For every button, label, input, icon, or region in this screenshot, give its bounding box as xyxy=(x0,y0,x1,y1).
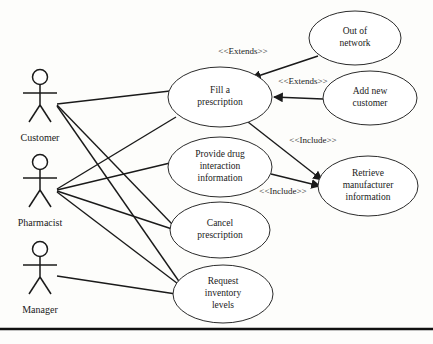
diagram-canvas: <<Extends>><<Extends>><<Include>><<Inclu… xyxy=(0,0,433,344)
use-case-label-retrieve-manufacturer-information: Retrieve xyxy=(352,168,384,178)
stereotype-label-provide-drug-interaction-includes-retrieve-manufacturer-information: <<Include>> xyxy=(259,186,306,196)
association-lines xyxy=(57,91,186,294)
actor-leg-left-customer xyxy=(29,105,40,122)
use-case-label-fill-a-prescription: Fill a xyxy=(210,85,231,95)
actor-customer[interactable]: Customer xyxy=(21,70,61,144)
stereotype-label-out-of-network-extends-fill-a-prescription: <<Extends>> xyxy=(218,46,267,56)
use-case-retrieve-manufacturer-information[interactable]: Retrievemanufacturerinformation xyxy=(318,156,418,216)
actor-leg-left-pharmacist xyxy=(29,190,40,207)
dependency-provide-drug-interaction-includes-retrieve-manufacturer-information xyxy=(271,174,320,186)
use-case-ellipses: Fill aprescriptionProvide druginteractio… xyxy=(168,11,418,323)
stereotype-label-add-new-customer-extends-fill-a-prescription: <<Extends>> xyxy=(278,76,327,86)
use-case-out-of-network[interactable]: Out ofnetwork xyxy=(309,11,401,65)
dependency-add-new-customer-extends-fill-a-prescription xyxy=(274,97,323,99)
use-case-label-request-inventory-levels: Request xyxy=(208,276,239,286)
use-case-label-out-of-network: Out of xyxy=(343,26,368,36)
use-case-label-provide-drug-interaction-information: information xyxy=(198,173,243,183)
association-pharmacist-fill-a-prescription xyxy=(57,117,176,189)
association-pharmacist-provide-drug-interaction xyxy=(57,163,170,190)
actor-head-customer xyxy=(33,70,48,85)
use-case-label-retrieve-manufacturer-information: information xyxy=(346,192,391,202)
use-case-provide-drug-interaction-information[interactable]: Provide druginteractioninformation xyxy=(168,137,272,197)
actor-leg-left-manager xyxy=(29,277,40,294)
actor-head-pharmacist xyxy=(33,155,48,170)
association-pharmacist-request-inventory-levels xyxy=(57,192,186,290)
use-case-label-retrieve-manufacturer-information: manufacturer xyxy=(343,180,394,190)
actor-leg-right-pharmacist xyxy=(40,190,51,207)
use-case-label-fill-a-prescription: prescription xyxy=(197,97,243,107)
actor-head-manager xyxy=(33,242,48,257)
stereotype-label-fill-a-prescription-includes-retrieve-manufacturer-information: <<Include>> xyxy=(289,135,336,145)
actor-pharmacist[interactable]: Pharmacist xyxy=(18,155,63,229)
association-customer-fill-a-prescription xyxy=(57,91,170,104)
association-pharmacist-cancel-prescription xyxy=(57,191,172,229)
dependency-out-of-network-extends-fill-a-prescription xyxy=(252,56,318,78)
use-case-label-cancel-prescription: Cancel xyxy=(207,218,234,228)
actor-figures: CustomerPharmacistManager xyxy=(18,70,63,316)
use-case-label-provide-drug-interaction-information: Provide drug xyxy=(195,149,245,159)
use-case-label-request-inventory-levels: inventory xyxy=(205,288,242,298)
use-case-diagram: <<Extends>><<Extends>><<Include>><<Inclu… xyxy=(0,0,433,344)
actor-manager[interactable]: Manager xyxy=(22,242,58,316)
use-case-cancel-prescription[interactable]: Cancelprescription xyxy=(170,202,270,258)
use-case-label-cancel-prescription: prescription xyxy=(197,230,243,240)
use-case-fill-a-prescription[interactable]: Fill aprescription xyxy=(168,67,272,127)
use-case-label-out-of-network: network xyxy=(339,38,370,48)
association-customer-cancel-prescription xyxy=(57,105,172,224)
use-case-label-provide-drug-interaction-information: interaction xyxy=(200,161,241,171)
use-case-label-add-new-customer: Add new xyxy=(353,86,388,96)
actor-label-manager: Manager xyxy=(22,304,58,315)
actor-label-customer: Customer xyxy=(21,132,61,143)
actor-label-pharmacist: Pharmacist xyxy=(18,217,63,228)
use-case-request-inventory-levels[interactable]: Requestinventorylevels xyxy=(173,265,273,323)
actor-leg-right-customer xyxy=(40,105,51,122)
use-case-add-new-customer[interactable]: Add newcustomer xyxy=(323,71,417,125)
actor-leg-right-manager xyxy=(40,277,51,294)
use-case-label-add-new-customer: customer xyxy=(353,98,389,108)
association-manager-request-inventory-levels xyxy=(57,276,176,294)
use-case-label-request-inventory-levels: levels xyxy=(212,300,234,310)
